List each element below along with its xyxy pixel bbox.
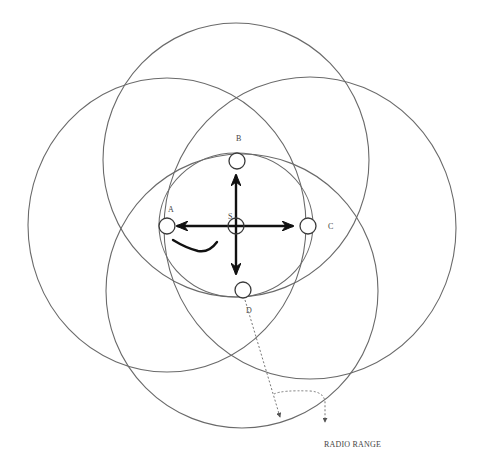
label-C: C (328, 222, 333, 231)
label-B: B (236, 134, 241, 143)
node-D (235, 282, 251, 298)
label-S: S (228, 212, 232, 221)
radio-range-indicator (245, 300, 325, 422)
label-D: D (246, 306, 252, 315)
node-A (159, 218, 175, 234)
node-B (229, 153, 245, 169)
node-C (300, 218, 316, 234)
movement-curve (173, 240, 217, 251)
radio-range-caption: RADIO RANGE (324, 440, 381, 449)
label-A: A (168, 205, 174, 214)
range-bracket (274, 391, 325, 422)
radio-range-diagram: S A B C D RADIO RANGE (0, 0, 483, 468)
